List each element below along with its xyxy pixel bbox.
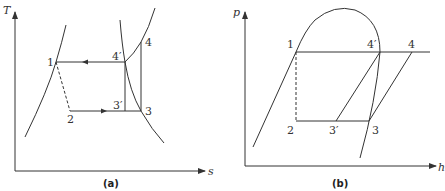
saturation-dome bbox=[253, 8, 380, 158]
t-axis-label: T bbox=[3, 4, 12, 17]
arrow-right-icon bbox=[101, 109, 107, 114]
point-4prime-label: 4′ bbox=[367, 38, 377, 51]
panel-a-caption: (a) bbox=[103, 178, 119, 189]
diagram-canvas: T s 1 2 3 3′ 4 4′ (a) p h bbox=[0, 0, 445, 191]
point-1-label: 1 bbox=[47, 56, 54, 69]
arrow-left-icon bbox=[82, 60, 88, 65]
h-axis-label: h bbox=[438, 161, 445, 174]
point-1-label: 1 bbox=[287, 38, 294, 51]
point-3-label: 3 bbox=[372, 124, 379, 137]
throttling-line-1-2 bbox=[56, 62, 70, 111]
point-3prime-label: 3′ bbox=[113, 99, 123, 112]
point-4-label: 4 bbox=[408, 38, 415, 51]
p-axis-label: p bbox=[233, 6, 240, 19]
point-2-label: 2 bbox=[67, 113, 74, 126]
point-3prime-label: 3′ bbox=[329, 124, 339, 137]
compression-line-3prime-4prime bbox=[336, 52, 380, 121]
panel-b-caption: (b) bbox=[332, 178, 348, 189]
point-4-label: 4 bbox=[145, 36, 152, 49]
saturated-vapor-curve bbox=[120, 20, 164, 143]
point-2-label: 2 bbox=[287, 124, 294, 137]
point-3-label: 3 bbox=[145, 105, 152, 118]
point-4prime-label: 4′ bbox=[112, 50, 122, 63]
superheat-isobar-curve bbox=[125, 8, 155, 62]
s-axis-label: s bbox=[208, 165, 214, 178]
panel-b-ph-diagram: p h 1 2 3 3′ 4 4′ (b) bbox=[233, 6, 445, 189]
panel-a-ts-diagram: T s 1 2 3 3′ 4 4′ (a) bbox=[3, 4, 214, 189]
saturated-liquid-curve bbox=[25, 25, 66, 137]
